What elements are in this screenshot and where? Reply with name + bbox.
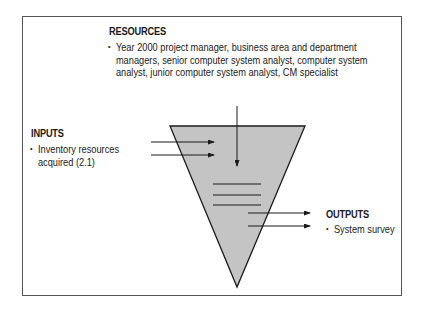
- outputs-item: System survey: [326, 223, 414, 236]
- resources-heading: RESOURCES: [109, 25, 166, 37]
- resources-item: Year 2000 project manager, business area…: [108, 41, 407, 79]
- resources-list: Year 2000 project manager, business area…: [108, 41, 407, 79]
- inputs-heading: INPUTS: [31, 127, 64, 139]
- outputs-list: System survey: [326, 223, 414, 236]
- outputs-heading: OUTPUTS: [326, 208, 369, 220]
- inputs-item: Inventory resourcesacquired (2.1): [30, 143, 153, 168]
- inputs-list: Inventory resourcesacquired (2.1): [30, 143, 153, 168]
